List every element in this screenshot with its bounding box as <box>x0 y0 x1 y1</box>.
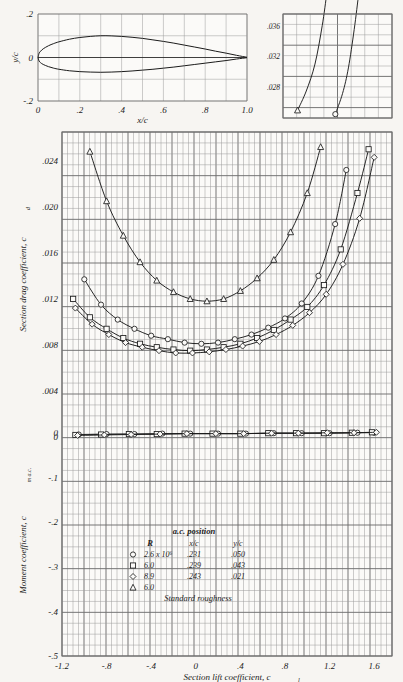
drag-data-marker-circle <box>98 302 103 307</box>
legend-marker-square <box>130 563 135 568</box>
legend-col-yc: y/c <box>232 539 243 548</box>
drag-data-marker-square <box>321 282 326 287</box>
moment-ytick-label: -.5 <box>48 651 58 661</box>
main-xtick-label: .4 <box>237 661 244 671</box>
legend-yc-value: .043 <box>231 561 245 570</box>
drag-data-marker-circle <box>282 316 287 321</box>
moment-ytick-label: -.4 <box>48 607 58 617</box>
drag-data-marker-square <box>305 304 310 309</box>
profile-xlabel: x/c <box>136 115 148 125</box>
drag-data-marker-circle <box>165 337 170 342</box>
main-xtick-label: -.4 <box>146 661 156 671</box>
drag-ylabel-subscript: d <box>24 206 31 210</box>
main-xtick-label: 1.6 <box>369 661 381 671</box>
drag-data-marker-circle <box>266 325 271 330</box>
airfoil-characteristics-figure: 0.2.4.6.81.0.20-.2x/cy/c.036.032.028-1.2… <box>0 0 403 682</box>
legend-footnote: Standard roughness <box>164 593 232 603</box>
moment-ytick-label: -.1 <box>48 473 58 483</box>
drag-ytick-label: .024 <box>42 156 58 166</box>
legend-R-value: 6.0 <box>144 561 154 570</box>
legend-xc-value: .239 <box>187 561 201 570</box>
profile-xtick-label: .6 <box>160 105 167 115</box>
drag-data-marker-circle <box>232 337 237 342</box>
drag-ylabel: Section drag coefficient, c <box>18 238 28 332</box>
moment-ylabel: Moment coefficient, c <box>18 516 28 595</box>
drag-ytick-label: .016 <box>42 248 58 258</box>
legend-col-xc: x/c <box>188 539 199 548</box>
drag-data-marker-square <box>338 247 343 252</box>
drag-ytick-label: .012 <box>42 294 58 304</box>
main-xlabel-subscript: l <box>298 676 300 682</box>
profile-plot: 0.2.4.6.81.0.20-.2x/cy/c <box>10 9 253 125</box>
legend-yc-value: .021 <box>231 572 245 581</box>
legend-title: a.c. position <box>173 526 216 536</box>
drag-data-marker-square <box>366 147 371 152</box>
inset-data-marker-circle <box>333 112 338 117</box>
profile-ylabel: y/c <box>10 52 20 64</box>
moment-ytick-label: 0 <box>54 428 59 438</box>
drag-data-marker-circle <box>115 317 120 322</box>
drag-data-marker-square <box>87 315 92 320</box>
moment-ytick-label: -.2 <box>48 517 58 527</box>
legend-R-value: 2.6 x 10⁶ <box>144 550 173 559</box>
drag-data-marker-circle <box>182 340 187 345</box>
drag-data-marker-square <box>288 317 293 322</box>
legend-R-value: 6.0 <box>144 583 154 592</box>
drag-data-marker-circle <box>149 333 154 338</box>
profile-ytick-label: .2 <box>26 9 33 19</box>
legend-xc-value: .231 <box>187 550 201 559</box>
legend-marker-circle <box>130 552 135 557</box>
legend-col-R: R <box>146 538 153 548</box>
profile-xtick-label: .8 <box>202 105 209 115</box>
main-xtick-label: .8 <box>282 661 289 671</box>
profile-xtick-label: .4 <box>118 105 125 115</box>
drag-ytick-label: .008 <box>42 340 58 350</box>
drag-ytick-label: .020 <box>42 202 58 212</box>
main-grid <box>62 132 392 656</box>
drag-data-marker-circle <box>249 332 254 337</box>
main-xtick-label: -1.2 <box>55 661 70 671</box>
drag-data-marker-square <box>355 190 360 195</box>
drag-data-marker-circle <box>132 326 137 331</box>
drag-data-marker-circle <box>333 221 338 226</box>
inset-ytick-label: .028 <box>267 83 280 92</box>
main-xlabel: Section lift coefficient, c <box>184 672 271 682</box>
drag-data-marker-circle <box>344 167 349 172</box>
drag-data-marker-circle <box>199 341 204 346</box>
drag-data-marker-circle <box>316 273 321 278</box>
drag-data-marker-circle <box>82 277 87 282</box>
main-xtick-label: 0 <box>194 661 199 671</box>
profile-xtick-label: 0 <box>36 105 41 115</box>
inset-ytick-label: .036 <box>267 22 280 31</box>
legend-xc-value: .243 <box>187 572 201 581</box>
legend-yc-value: .050 <box>231 550 245 559</box>
profile-xtick-label: 1.0 <box>241 105 253 115</box>
profile-xtick-label: .2 <box>76 105 83 115</box>
profile-ytick-label: 0 <box>29 53 34 63</box>
inset-ytick-label: .032 <box>267 52 280 61</box>
drag-data-marker-circle <box>299 301 304 306</box>
figure-page: 0.2.4.6.81.0.20-.2x/cy/c.036.032.028-1.2… <box>0 0 403 682</box>
drag-ytick-label: .004 <box>42 386 58 396</box>
moment-ytick-label: -.3 <box>48 562 58 572</box>
drag-data-marker-circle <box>215 340 220 345</box>
main-xtick-label: 1.2 <box>324 661 336 671</box>
drag-data-marker-square <box>71 296 76 301</box>
inset-plot: .036.032.028 <box>267 0 392 118</box>
moment-ylabel-subscript: m a.c. <box>26 468 32 483</box>
legend-R-value: 8.9 <box>144 572 154 581</box>
inset-grid <box>283 14 392 118</box>
main-plot: -1.2-.8-.40.4.81.21.6Section lift coeffi… <box>18 132 392 682</box>
main-xtick-label: -.8 <box>102 661 112 671</box>
profile-ytick-label: -.2 <box>23 96 33 106</box>
drag-data-marker-square <box>104 326 109 331</box>
